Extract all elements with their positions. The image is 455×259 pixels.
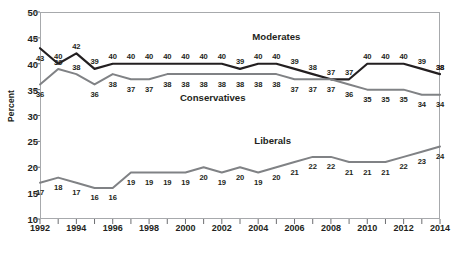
data-point-label: 40 <box>163 52 171 61</box>
data-point-label: 35 <box>381 95 389 104</box>
data-point-label: 38 <box>272 80 280 89</box>
data-point-label: 16 <box>90 193 98 202</box>
chart-container: Percent 101520253035404550 1992199419961… <box>0 0 455 259</box>
data-point-label: 37 <box>290 85 298 94</box>
data-point-label: 38 <box>163 80 171 89</box>
data-point-label: 19 <box>181 178 189 187</box>
data-point-label: 19 <box>127 178 135 187</box>
data-point-label: 19 <box>254 178 262 187</box>
data-point-label: 18 <box>54 183 62 192</box>
data-point-label: 39 <box>290 57 298 66</box>
data-point-label: 21 <box>381 168 389 177</box>
x-axis-tick: 1992 <box>30 223 50 233</box>
data-point-label: 38 <box>72 63 80 72</box>
data-point-label: 34 <box>418 100 426 109</box>
data-point-label: 37 <box>345 68 353 77</box>
data-point-label: 34 <box>436 100 444 109</box>
data-point-label: 16 <box>109 193 117 202</box>
x-axis-tick: 1996 <box>103 223 123 233</box>
data-point-label: 38 <box>200 80 208 89</box>
data-point-label: 21 <box>345 168 353 177</box>
data-point-label: 35 <box>363 95 371 104</box>
x-axis-tick: 2008 <box>321 223 341 233</box>
data-point-label: 23 <box>418 157 426 166</box>
x-axis-tick: 1998 <box>139 223 159 233</box>
data-point-label: 37 <box>327 85 335 94</box>
data-point-label: 40 <box>200 52 208 61</box>
x-axis-tick: 2010 <box>357 223 377 233</box>
data-point-label: 36 <box>90 90 98 99</box>
data-point-label: 40 <box>127 52 135 61</box>
data-point-label: 39 <box>90 57 98 66</box>
data-point-label: 38 <box>436 63 444 72</box>
data-point-label: 40 <box>381 52 389 61</box>
data-point-label: 38 <box>254 80 262 89</box>
data-point-label: 21 <box>290 168 298 177</box>
data-point-label: 22 <box>327 162 335 171</box>
data-point-label: 39 <box>236 57 244 66</box>
data-point-label: 22 <box>309 162 317 171</box>
data-point-label: 24 <box>436 152 444 161</box>
data-point-label: 21 <box>363 168 371 177</box>
x-axis-tick: 2006 <box>285 223 305 233</box>
data-point-label: 22 <box>400 162 408 171</box>
data-point-label: 37 <box>127 85 135 94</box>
data-point-label: 40 <box>181 52 189 61</box>
data-point-label: 40 <box>363 52 371 61</box>
chart-plot-svg <box>0 0 455 259</box>
x-axis-tick: 2012 <box>394 223 414 233</box>
data-point-label: 36 <box>36 90 44 99</box>
x-axis-tick: 2002 <box>212 223 232 233</box>
x-axis-tick: 2014 <box>430 223 450 233</box>
data-point-label: 38 <box>181 80 189 89</box>
data-point-label: 36 <box>345 90 353 99</box>
data-point-label: 39 <box>418 57 426 66</box>
data-point-label: 43 <box>36 54 44 63</box>
data-point-label: 40 <box>109 52 117 61</box>
data-point-label: 37 <box>309 85 317 94</box>
data-point-label: 19 <box>218 178 226 187</box>
x-axis-tick: 1994 <box>66 223 86 233</box>
series-label-conservatives: Conservatives <box>180 92 246 103</box>
data-point-label: 35 <box>400 95 408 104</box>
data-point-label: 20 <box>272 173 280 182</box>
data-point-label: 38 <box>236 80 244 89</box>
x-axis-tick: 2004 <box>248 223 268 233</box>
data-point-label: 40 <box>218 52 226 61</box>
data-point-label: 39 <box>54 58 62 67</box>
data-point-label: 42 <box>72 42 80 51</box>
x-axis-tick: 2000 <box>175 223 195 233</box>
data-point-label: 38 <box>309 63 317 72</box>
data-point-label: 37 <box>145 85 153 94</box>
data-point-label: 17 <box>72 188 80 197</box>
data-point-label: 38 <box>109 80 117 89</box>
data-point-label: 19 <box>145 178 153 187</box>
data-point-label: 38 <box>218 80 226 89</box>
data-point-label: 20 <box>200 173 208 182</box>
series-label-moderates: Moderates <box>252 31 300 42</box>
data-point-label: 37 <box>327 68 335 77</box>
data-point-label: 17 <box>36 188 44 197</box>
data-point-label: 40 <box>145 52 153 61</box>
data-point-label: 40 <box>400 52 408 61</box>
series-label-liberals: Liberals <box>254 135 291 146</box>
data-point-label: 40 <box>254 52 262 61</box>
data-point-label: 19 <box>163 178 171 187</box>
data-point-label: 20 <box>236 173 244 182</box>
data-point-label: 40 <box>272 52 280 61</box>
